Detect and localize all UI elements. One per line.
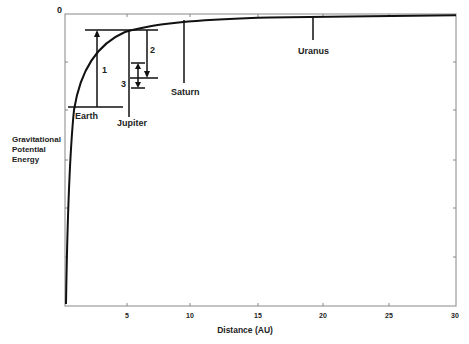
plot-frame xyxy=(65,14,456,306)
x-tick-label: 10 xyxy=(186,312,194,319)
x-tick-label: 20 xyxy=(319,312,327,319)
arrow-3-down-head-icon xyxy=(135,82,141,88)
y-axis-label-line1: Gravitational xyxy=(12,135,61,144)
y-ticks xyxy=(65,62,456,257)
x-ticks xyxy=(127,14,389,306)
arrow-1-label: 1 xyxy=(102,65,107,75)
y-axis-label-line3: Energy xyxy=(12,155,40,164)
arrow-2-label: 2 xyxy=(150,45,155,55)
arrow-3-label: 3 xyxy=(121,79,126,89)
y-tick-label-0: 0 xyxy=(57,5,62,15)
x-tick-label: 30 xyxy=(451,312,459,319)
label-earth: Earth xyxy=(75,111,98,121)
label-uranus: Uranus xyxy=(298,46,329,56)
x-tick-label: 15 xyxy=(254,312,262,319)
x-tick-label: 25 xyxy=(385,312,393,319)
arrow-3-up-head-icon xyxy=(135,63,141,69)
label-jupiter: Jupiter xyxy=(117,118,148,128)
potential-curve xyxy=(66,15,456,304)
x-axis-label: Distance (AU) xyxy=(217,325,273,335)
arrow-2-head-icon xyxy=(144,71,150,78)
chart: 0 Earth Jupiter Saturn Uranus 1 2 3 Grav… xyxy=(0,0,469,344)
arrow-1-head-icon xyxy=(94,30,100,37)
label-saturn: Saturn xyxy=(171,87,200,97)
x-tick-label: 5 xyxy=(125,312,129,319)
y-axis-label-line2: Potential xyxy=(12,145,46,154)
x-tick-labels: 5 10 15 20 25 30 xyxy=(125,312,459,319)
